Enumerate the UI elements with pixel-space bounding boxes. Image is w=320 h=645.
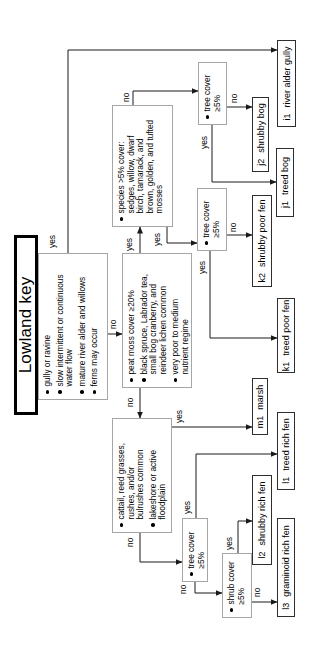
list-item: slow intermittent or continuous water fl…	[56, 258, 75, 395]
terminal-code: l1	[281, 477, 291, 484]
list-item: mature river alder and willows	[78, 258, 88, 395]
terminal-code: l3	[281, 603, 291, 610]
list-item: black spruce, Labrador tea, small bog cr…	[140, 258, 169, 383]
item-text: tree cover ≥5%	[202, 201, 221, 238]
terminal-code: k2	[257, 273, 267, 283]
item-text: ferns may occur	[90, 327, 100, 386]
terminal-code: j2	[256, 159, 266, 166]
terminal-shrubby-bog: j2shrubby bog	[252, 97, 269, 172]
terminal-label: shrubby bog	[256, 103, 266, 153]
list-item: species >5% cover: sedges, willow, dwarf…	[117, 110, 165, 222]
list-item: shrub cover ≥5%	[227, 558, 246, 613]
label-peat-yes: yes	[125, 238, 133, 251]
bullet-icon	[80, 391, 84, 395]
terminal-label: treed poor fen	[281, 300, 291, 356]
item-text: mature river alder and willows	[78, 277, 88, 387]
label-treecover-richfen-yes: yes	[183, 501, 191, 514]
terminal-treed-poor-fen: k1treed poor fen	[277, 298, 295, 373]
label-species-yes: yes	[153, 233, 161, 246]
label-species-no: no	[122, 93, 130, 102]
terminal-code: i1	[282, 114, 292, 121]
list-item: very poor to medium nutrient regime	[171, 258, 190, 383]
decision-tree-cover-rich-fen: tree cover ≥5%	[182, 518, 208, 582]
decision-tree-cover-bog: tree cover ≥5%	[198, 62, 227, 125]
label-treecover-richfen-no: no	[179, 585, 187, 594]
bullet-icon	[151, 524, 155, 528]
item-text: peat moss cover ≥20%	[127, 290, 137, 374]
terminal-graminoid-rich-fen: l3graminoid rich fen	[277, 518, 295, 617]
terminal-label: marsh	[255, 385, 265, 410]
list-item: peat moss cover ≥20%	[127, 258, 137, 383]
label-marshtest-no: no	[126, 538, 134, 547]
terminal-code: l2	[257, 552, 267, 559]
decision-fen-species: species >5% cover: sedges, willow, dwarf…	[112, 105, 173, 227]
bullet-icon	[46, 391, 50, 395]
flowchart-canvas: Lowland key gully or ravine slow intermi…	[0, 0, 320, 645]
page-title: Lowland key	[14, 235, 38, 415]
bullet-icon	[190, 573, 194, 577]
bullet-icon	[120, 218, 124, 222]
terminal-label: shrubby rich fen	[257, 481, 267, 545]
terminal-river-alder-gully: i1river alder gully	[277, 40, 296, 127]
terminal-code: m1	[255, 416, 265, 429]
decision-marsh-indicators: cattail, reed grasses, rushes, and/or bu…	[112, 418, 172, 533]
terminal-label: river alder gully	[282, 46, 292, 107]
item-text: black spruce, Labrador tea, small bog cr…	[140, 274, 169, 375]
bullet-icon	[230, 609, 234, 613]
item-text: shrub cover ≥5%	[227, 561, 246, 604]
bullet-icon	[130, 379, 134, 383]
decision-peat-moss: peat moss cover ≥20% black spruce, Labra…	[122, 253, 192, 388]
bullet-icon	[120, 524, 124, 528]
item-text: slow intermittent or continuous water fl…	[56, 274, 75, 386]
list-item: gully or ravine	[43, 258, 53, 395]
terminal-label: treed bog	[280, 157, 290, 195]
terminal-code: j1	[280, 201, 290, 208]
decision-shrub-cover: shrub cover ≥5%	[222, 553, 252, 618]
item-text: species >5% cover: sedges, willow, dwarf…	[117, 120, 165, 214]
connector-treecover-richfen-no	[195, 582, 222, 593]
terminal-shrubby-rich-fen: l2shrubby rich fen	[252, 475, 272, 565]
label-site-no: no	[109, 320, 117, 329]
item-text: very poor to medium nutrient regime	[171, 299, 190, 375]
terminal-label: treed rich fen	[281, 418, 291, 471]
list-item: tree cover ≥5%	[187, 523, 206, 577]
connector-shrubcover-yes	[238, 521, 252, 553]
label-treecover-poorfen-no: no	[229, 223, 237, 232]
label-treecover-bog-yes: yes	[200, 136, 208, 149]
label-treecover-poorfen-yes: yes	[198, 261, 206, 274]
connector-species-no	[133, 91, 198, 105]
connector-marshtest-no	[140, 533, 182, 562]
item-text: gully or ravine	[43, 335, 53, 387]
list-item: tree cover ≥5%	[202, 193, 221, 246]
label-peat-no: no	[126, 398, 134, 407]
item-text: tree cover ≥5%	[187, 532, 206, 569]
bullet-icon	[205, 242, 209, 246]
terminal-label: graminoid rich fen	[281, 525, 291, 597]
bullet-icon	[93, 391, 97, 395]
lowland-key-figure: Lowland key gully or ravine slow intermi…	[0, 0, 320, 645]
list-item: tree cover ≥5%	[203, 67, 222, 120]
bullet-icon	[174, 379, 178, 383]
terminal-code: k1	[281, 362, 291, 372]
label-treecover-bog-no: no	[230, 94, 238, 103]
terminal-shrubby-poor-fen: k2shrubby poor fen	[252, 195, 272, 287]
bullet-icon	[142, 379, 146, 383]
list-item: cattail, reed grasses, rushes, and/or bu…	[117, 423, 146, 528]
label-shrubcover-yes: yes	[225, 537, 233, 550]
item-text: lakeshore or active floodplain	[149, 450, 168, 520]
terminal-marsh: m1marsh	[252, 378, 268, 435]
connector-species-yes	[167, 227, 197, 243]
terminal-treed-bog: j1treed bog	[276, 148, 294, 217]
list-item: ferns may occur	[90, 258, 100, 395]
label-shrubcover-no: no	[253, 588, 261, 597]
label-site-yes: yes	[48, 235, 56, 248]
label-marshtest-yes: yes	[175, 410, 183, 423]
terminal-treed-rich-fen: l1treed rich fen	[277, 412, 295, 490]
item-text: tree cover ≥5%	[203, 75, 222, 112]
decision-tree-cover-poor-fen: tree cover ≥5%	[197, 188, 227, 251]
decision-site-characteristics: gully or ravine slow intermittent or con…	[38, 253, 108, 400]
bullet-icon	[58, 391, 62, 395]
bullet-icon	[206, 116, 210, 120]
item-text: cattail, reed grasses, rushes, and/or bu…	[117, 443, 146, 520]
terminal-label: shrubby poor fen	[257, 199, 267, 267]
